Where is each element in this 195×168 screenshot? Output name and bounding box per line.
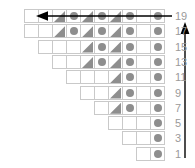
triangle-icon <box>110 26 121 37</box>
empty-cell <box>136 9 151 23</box>
circle-icon <box>126 43 134 51</box>
circle-icon <box>154 27 162 35</box>
empty-cell <box>66 40 81 54</box>
triangle-icon <box>110 11 121 22</box>
row-label: 11 <box>175 70 193 84</box>
circle-marker-cell <box>150 40 165 54</box>
staircase-grid-figure: 191715131197531 <box>0 0 195 168</box>
circle-marker-cell <box>150 86 165 100</box>
triangle-marker-cell <box>108 9 123 23</box>
circle-marker-cell <box>150 116 165 130</box>
circle-marker-cell <box>66 24 81 38</box>
circle-marker-cell <box>150 147 165 161</box>
empty-cell <box>136 40 151 54</box>
empty-cell <box>24 24 39 38</box>
circle-icon <box>154 150 162 158</box>
empty-cell <box>66 55 81 69</box>
empty-cell <box>80 70 95 84</box>
triangle-marker-cell <box>80 24 95 38</box>
triangle-icon <box>110 88 121 99</box>
circle-marker-cell <box>122 24 137 38</box>
empty-cell <box>136 131 151 145</box>
circle-icon <box>126 12 134 20</box>
empty-cell <box>136 70 151 84</box>
row-label: 17 <box>175 24 193 38</box>
circle-icon <box>154 104 162 112</box>
row-label: 3 <box>175 131 193 145</box>
empty-cell <box>136 116 151 130</box>
circle-icon <box>126 58 134 66</box>
grid-row <box>38 40 164 54</box>
triangle-icon <box>110 72 121 83</box>
circle-marker-cell <box>94 24 109 38</box>
empty-cell <box>52 55 67 69</box>
circle-marker-cell <box>122 9 137 23</box>
circle-marker-cell <box>94 9 109 23</box>
empty-cell <box>136 147 151 161</box>
circle-icon <box>126 104 134 112</box>
row-label: 9 <box>175 86 193 100</box>
empty-cell <box>24 9 39 23</box>
empty-cell <box>94 101 109 115</box>
row-label: 1 <box>175 147 193 161</box>
circle-icon <box>154 134 162 142</box>
triangle-marker-cell <box>52 9 67 23</box>
circle-marker-cell <box>94 55 109 69</box>
circle-marker-cell <box>150 101 165 115</box>
circle-icon <box>154 89 162 97</box>
grid-row <box>24 24 164 38</box>
row-label: 19 <box>175 9 193 23</box>
triangle-marker-cell <box>80 55 95 69</box>
grid-row <box>122 131 164 145</box>
circle-icon <box>98 58 106 66</box>
grid-row <box>136 147 164 161</box>
circle-icon <box>154 12 162 20</box>
triangle-marker-cell <box>108 24 123 38</box>
circle-marker-cell <box>150 131 165 145</box>
grid-row <box>24 9 164 23</box>
empty-cell <box>52 40 67 54</box>
triangle-icon <box>82 42 93 53</box>
circle-marker-cell <box>94 40 109 54</box>
triangle-marker-cell <box>108 40 123 54</box>
triangle-marker-cell <box>108 55 123 69</box>
triangle-icon <box>82 11 93 22</box>
empty-cell <box>122 131 137 145</box>
circle-icon <box>98 43 106 51</box>
empty-cell <box>122 116 137 130</box>
circle-marker-cell <box>150 55 165 69</box>
row-label: 5 <box>175 116 193 130</box>
circle-icon <box>126 89 134 97</box>
circle-icon <box>70 12 78 20</box>
empty-cell <box>80 86 95 100</box>
triangle-icon <box>110 42 121 53</box>
circle-icon <box>126 27 134 35</box>
circle-icon <box>154 119 162 127</box>
grid-row <box>80 86 164 100</box>
empty-cell <box>94 86 109 100</box>
triangle-icon <box>54 11 65 22</box>
grid-row <box>94 101 164 115</box>
triangle-icon <box>54 26 65 37</box>
empty-cell <box>38 9 53 23</box>
grid-row <box>52 55 164 69</box>
empty-cell <box>38 40 53 54</box>
circle-icon <box>154 43 162 51</box>
circle-icon <box>98 27 106 35</box>
circle-marker-cell <box>122 86 137 100</box>
circle-icon <box>126 73 134 81</box>
empty-cell <box>136 86 151 100</box>
circle-icon <box>154 73 162 81</box>
grid-container <box>0 0 170 168</box>
grid-row <box>66 70 164 84</box>
circle-icon <box>98 12 106 20</box>
triangle-marker-cell <box>52 24 67 38</box>
circle-marker-cell <box>150 9 165 23</box>
empty-cell <box>136 24 151 38</box>
triangle-icon <box>82 26 93 37</box>
circle-marker-cell <box>150 24 165 38</box>
grid-row <box>108 116 164 130</box>
row-label: 13 <box>175 55 193 69</box>
circle-marker-cell <box>122 70 137 84</box>
triangle-marker-cell <box>80 9 95 23</box>
